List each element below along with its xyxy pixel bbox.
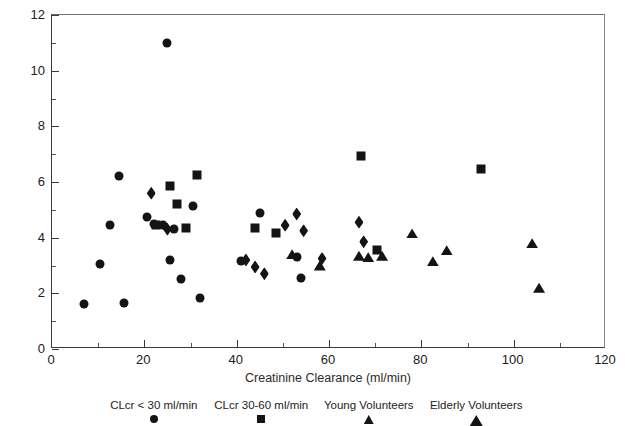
legend-square-marker [257, 415, 265, 423]
legend-entry: Elderly Volunteers [423, 399, 531, 426]
y-axis-tick-label: 2 [15, 285, 45, 300]
y-axis-minor-tick [52, 43, 56, 44]
x-axis-tick-label: 0 [31, 352, 71, 367]
x-axis-tick-label: 60 [308, 352, 348, 367]
data-point-circle [195, 293, 204, 302]
data-point-circle [165, 255, 174, 264]
x-axis-minor-tick [468, 343, 469, 347]
data-point-circle [114, 172, 123, 181]
data-point-triangle [533, 283, 545, 293]
x-axis-tick-label: 20 [123, 352, 163, 367]
y-axis-minor-tick [52, 99, 56, 100]
legend-label: CLcr < 30 ml/min [110, 399, 197, 412]
x-axis-tick-label: 80 [400, 352, 440, 367]
data-point-square [172, 200, 181, 209]
data-point-diamond [281, 219, 290, 232]
legend-entry: CLcr 30-60 ml/min [208, 399, 316, 423]
y-axis-tick [52, 349, 59, 350]
y-axis-minor-tick [52, 154, 56, 155]
data-point-circle [80, 300, 89, 309]
data-point-diamond [292, 208, 301, 221]
x-axis-tick [329, 340, 330, 347]
y-axis-tick-labels: 024681012 [13, 14, 45, 348]
data-point-diamond [355, 216, 364, 229]
x-axis-tick-label: 120 [585, 352, 625, 367]
y-axis-tick [52, 15, 59, 16]
y-axis-tick-label: 12 [15, 7, 45, 22]
data-point-diamond [147, 187, 156, 200]
data-point-square [477, 165, 486, 174]
data-point-diamond [359, 235, 368, 248]
y-axis-tick [52, 71, 59, 72]
x-axis-minor-tick [191, 343, 192, 347]
legend-triangle-large-marker [470, 415, 483, 426]
data-point-circle [177, 275, 186, 284]
x-axis-title: Creatinine Clearance (ml/min) [51, 371, 605, 385]
x-axis-tick-label: 40 [216, 352, 256, 367]
legend-entry: CLcr < 30 ml/min [100, 399, 208, 423]
legend-triangle-marker [364, 415, 374, 424]
data-point-triangle [427, 256, 439, 266]
y-axis-tick-label: 4 [15, 229, 45, 244]
x-axis-tick [514, 340, 515, 347]
y-axis-tick [52, 238, 59, 239]
data-point-circle [297, 274, 306, 283]
y-axis-tick [52, 126, 59, 127]
y-axis-tick-label: 6 [15, 174, 45, 189]
data-point-diamond [299, 224, 308, 237]
data-point-square [357, 151, 366, 160]
data-point-square [193, 171, 202, 180]
y-axis-tick-label: 10 [15, 62, 45, 77]
data-point-square [165, 182, 174, 191]
x-axis-tick [237, 340, 238, 347]
x-axis-tick [144, 340, 145, 347]
y-axis-minor-tick [52, 266, 56, 267]
data-point-triangle [441, 245, 453, 255]
data-point-circle [188, 201, 197, 210]
data-point-circle [105, 221, 114, 230]
data-point-diamond [251, 260, 260, 273]
data-point-circle [96, 260, 105, 269]
x-axis-minor-tick [98, 343, 99, 347]
data-point-square [271, 229, 280, 238]
data-point-triangle [406, 228, 418, 238]
data-point-circle [255, 208, 264, 217]
x-axis-minor-tick [283, 343, 284, 347]
legend-label: Elderly Volunteers [430, 399, 523, 412]
data-point-square [251, 223, 260, 232]
data-point-triangle [353, 251, 365, 261]
y-axis-minor-tick [52, 321, 56, 322]
x-axis-tick [421, 340, 422, 347]
data-point-circle [163, 38, 172, 47]
y-axis-tick [52, 182, 59, 183]
legend-circle-marker [150, 415, 158, 423]
plot-area [51, 14, 605, 348]
x-axis-minor-tick [560, 343, 561, 347]
data-point-circle [119, 299, 128, 308]
y-axis-tick [52, 293, 59, 294]
x-axis-minor-tick [375, 343, 376, 347]
data-point-triangle [526, 238, 538, 248]
data-points-layer [52, 15, 606, 349]
legend-label: CLcr 30-60 ml/min [214, 399, 308, 412]
legend-entry: Young Volunteers [315, 399, 423, 424]
x-axis-tick-labels: 020406080100120 [51, 352, 605, 370]
data-point-diamond [260, 267, 269, 280]
legend-label: Young Volunteers [324, 399, 414, 412]
data-point-square [151, 221, 160, 230]
y-axis-minor-tick [52, 210, 56, 211]
legend: CLcr < 30 ml/minCLcr 30-60 ml/minYoung V… [100, 399, 530, 423]
data-point-square [181, 223, 190, 232]
y-axis-tick-label: 8 [15, 118, 45, 133]
x-axis-tick-label: 100 [493, 352, 533, 367]
